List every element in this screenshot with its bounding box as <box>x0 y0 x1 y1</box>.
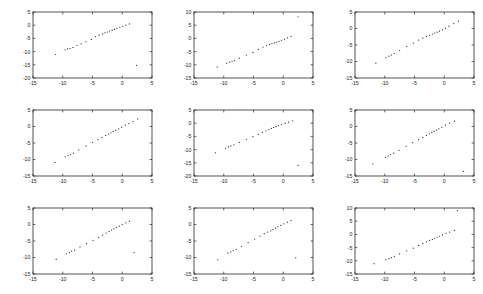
y-tick-label: -5 <box>26 35 31 41</box>
data-point <box>258 49 259 50</box>
data-point <box>399 50 400 51</box>
data-point <box>398 150 399 151</box>
x-tick-label: 5 <box>312 178 315 184</box>
plot-area: -15-10-505-15-10-505 <box>322 0 483 98</box>
y-tick-label: -10 <box>345 258 353 264</box>
data-point <box>270 230 271 231</box>
data-point <box>109 231 110 232</box>
data-point <box>390 154 391 155</box>
data-point <box>385 259 386 260</box>
x-tick-label: -5 <box>90 178 95 184</box>
x-tick-label: -5 <box>251 80 256 86</box>
data-point <box>119 226 120 227</box>
data-point <box>454 121 455 122</box>
data-point <box>413 248 414 249</box>
data-point <box>106 232 107 233</box>
data-point <box>458 21 459 22</box>
data-point <box>241 246 242 247</box>
x-tick-label: -10 <box>220 276 228 282</box>
data-point <box>67 48 68 49</box>
data-point <box>429 240 430 241</box>
data-point <box>67 155 68 156</box>
x-tick-label: -15 <box>29 178 37 184</box>
y-tick-label: 0 <box>28 22 31 28</box>
y-tick-label: -5 <box>187 49 192 55</box>
scatter-subplot: -20-15-10-505-15-10-505 <box>0 0 161 98</box>
data-point <box>273 127 274 128</box>
data-point <box>275 228 276 229</box>
data-point <box>439 236 440 237</box>
data-point <box>215 152 216 153</box>
data-point <box>422 137 423 138</box>
data-point <box>412 142 413 143</box>
axes-frame <box>355 208 474 274</box>
x-tick-label: 5 <box>312 276 315 282</box>
axes-frame <box>33 110 152 176</box>
y-tick-label: 5 <box>350 107 353 113</box>
data-point <box>275 126 276 127</box>
scatter-subplot: -15-10-505-15-10-505 <box>322 98 483 196</box>
plot-area: -15-10-50510-15-10-505 <box>322 196 483 294</box>
x-tick-label: -15 <box>190 178 198 184</box>
data-point <box>70 154 71 155</box>
data-point <box>226 63 227 64</box>
data-point <box>406 146 407 147</box>
x-tick-label: -10 <box>59 276 67 282</box>
data-point <box>121 127 122 128</box>
y-tick-label: 10 <box>347 205 353 211</box>
data-point <box>298 16 299 17</box>
x-tick-label: -15 <box>351 80 359 86</box>
data-point <box>266 45 267 46</box>
y-tick-label: 0 <box>350 231 353 237</box>
data-point <box>102 234 103 235</box>
x-tick-label: 0 <box>121 80 124 86</box>
x-tick-label: -15 <box>190 80 198 86</box>
x-tick-label: 0 <box>443 178 446 184</box>
data-point <box>265 130 266 131</box>
data-point <box>74 250 75 251</box>
data-point <box>287 222 288 223</box>
data-point <box>136 65 137 66</box>
data-point <box>278 41 279 42</box>
data-point <box>449 231 450 232</box>
data-point <box>254 238 255 239</box>
data-point <box>122 224 123 225</box>
axes-frame <box>194 208 313 274</box>
x-tick-label: 0 <box>121 276 124 282</box>
y-tick-label: -5 <box>348 245 353 251</box>
data-point <box>295 257 296 258</box>
y-tick-label: 5 <box>350 218 353 224</box>
data-point <box>298 165 299 166</box>
data-point <box>118 128 119 129</box>
data-point <box>290 220 291 221</box>
data-point <box>453 23 454 24</box>
data-point <box>385 57 386 58</box>
data-point <box>439 31 440 32</box>
data-point <box>372 163 373 164</box>
data-point <box>104 32 105 33</box>
data-point <box>72 47 73 48</box>
plot-area: -20-15-10-505-15-10-505 <box>161 98 322 196</box>
axes-frame <box>194 110 313 176</box>
data-point <box>98 35 99 36</box>
data-point <box>81 43 82 44</box>
data-point <box>434 238 435 239</box>
data-point <box>98 237 99 238</box>
data-point <box>269 44 270 45</box>
data-point <box>73 153 74 154</box>
x-tick-label: -15 <box>190 276 198 282</box>
data-point <box>95 36 96 37</box>
data-point <box>284 39 285 40</box>
data-point <box>426 36 427 37</box>
data-point <box>394 256 395 257</box>
data-point <box>125 222 126 223</box>
plot-area: -15-10-505-15-10-505 <box>0 196 161 294</box>
data-point <box>393 153 394 154</box>
plot-area: -15-10-505-15-10-505 <box>322 98 483 196</box>
data-point <box>434 131 435 132</box>
y-tick-label: 5 <box>189 22 192 28</box>
y-tick-label: -5 <box>348 42 353 48</box>
data-point <box>463 171 464 172</box>
data-point <box>274 42 275 43</box>
scatter-subplot: -15-10-505-15-10-505 <box>322 0 483 98</box>
